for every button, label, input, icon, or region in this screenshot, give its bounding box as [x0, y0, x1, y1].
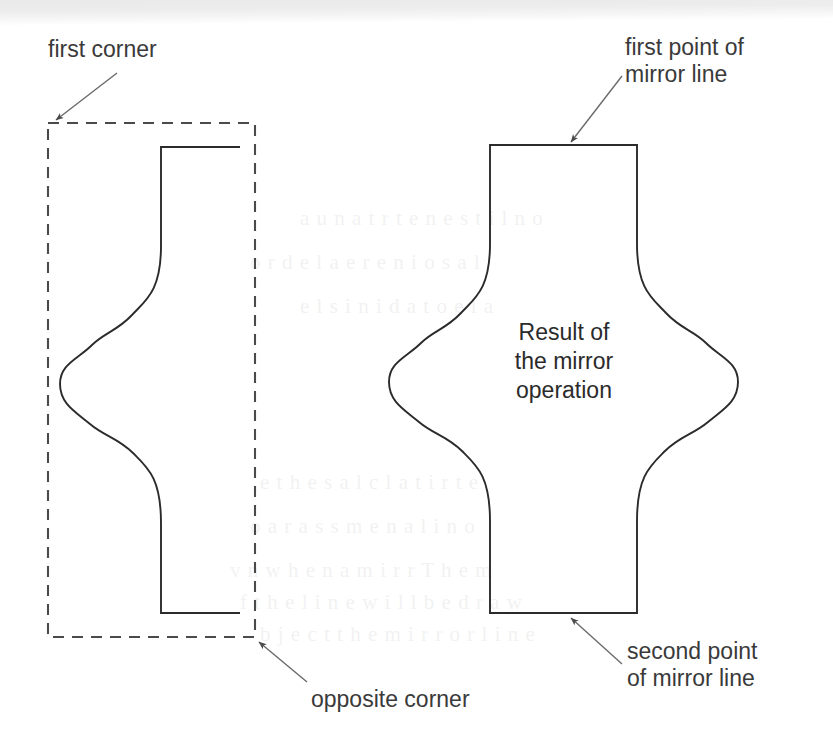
first-corner-leader: [56, 73, 117, 120]
label-opposite-corner: opposite corner: [311, 686, 470, 713]
label-first-corner: first corner: [48, 36, 157, 63]
mirror-operation-figure: a u n a t r t e n e s t i l n oo r d e l…: [0, 0, 833, 752]
second-point-of-mirror-line-leader: [571, 618, 622, 664]
label-first-point-of-mirror-line: first point of mirror line: [625, 34, 744, 88]
label-result-of-the-mirror-operation: Result of the mirror operation: [459, 318, 669, 405]
label-second-point-of-mirror-line: second point of mirror line: [627, 638, 757, 692]
first-point-of-mirror-line-leader: [571, 76, 622, 142]
original-profile-shape: [60, 147, 240, 613]
opposite-corner-leader: [259, 642, 307, 682]
dashed-selection-rectangle: [48, 123, 255, 637]
